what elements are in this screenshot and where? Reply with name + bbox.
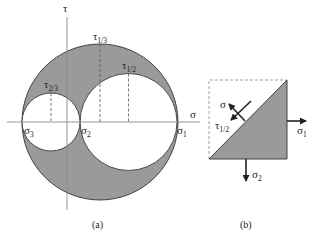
tau-axis-label: τ [63,2,68,14]
triangular-element [209,80,287,159]
panel-a: τ σ τ1/3 τ1/2 τ2/3 σ3 σ2 σ1 (a) [7,2,200,231]
tau-1-3-label: τ1/3 [93,30,107,45]
normal-stress-label: σ [220,98,226,110]
sigma-2-arrow-label: σ2 [252,168,262,183]
normal-stress-arrow [229,104,245,121]
sigma-axis-label: σ [190,108,196,120]
panel-a-caption: (a) [92,219,103,231]
sigma-1-arrow-label: σ1 [297,124,307,139]
panel-b-caption: (b) [240,219,252,231]
shear-stress-label: τ1/2 [215,119,229,134]
sigma-1-label: σ1 [177,124,187,139]
panel-b: σ τ1/2 σ1 σ2 (b) [209,80,307,231]
mohr-circle-figure: τ σ τ1/3 τ1/2 τ2/3 σ3 σ2 σ1 (a) [0,0,316,235]
